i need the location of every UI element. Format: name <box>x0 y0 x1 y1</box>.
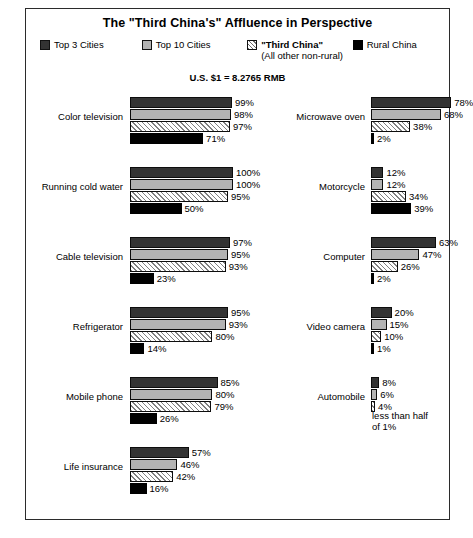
bar-row: 2% <box>371 273 451 284</box>
category-label: Color television <box>26 111 126 122</box>
bar-value-label: 46% <box>180 459 199 470</box>
bar-row: 50% <box>130 203 238 214</box>
legend-text: Top 10 Cities <box>156 39 211 50</box>
bar-row: 2% <box>371 133 451 144</box>
legend-label: "Third China" <box>261 39 343 50</box>
bar-value-label: 10% <box>384 331 403 342</box>
bar <box>130 459 177 470</box>
bar-value-label: 78% <box>454 97 473 108</box>
bar-row: 20% <box>371 307 451 318</box>
bar-value-label: 85% <box>221 377 240 388</box>
bar-value-label: 34% <box>409 191 428 202</box>
bar-value-label: 23% <box>157 273 176 284</box>
bar <box>130 133 203 144</box>
light-gray-swatch <box>142 40 152 50</box>
bar-row: 80% <box>130 389 238 400</box>
chart-group: Mobile phone85%80%79%26% <box>26 377 238 425</box>
bar <box>130 483 147 494</box>
bar-row: 63% <box>371 237 451 248</box>
category-label: Video camera <box>238 321 368 332</box>
bar-row: 10% <box>371 331 451 342</box>
bar-value-label: 80% <box>215 389 234 400</box>
chart-group: Color television99%98%97%71% <box>26 97 238 145</box>
category-label: Computer <box>238 251 368 262</box>
bar-value-label: 47% <box>422 249 441 260</box>
bar <box>130 273 154 284</box>
bar-row: 95% <box>130 249 238 260</box>
bar-value-label: 26% <box>160 413 179 424</box>
bar-row: 23% <box>130 273 238 284</box>
bar-value-label: 14% <box>147 343 166 354</box>
dark-gray-swatch <box>40 40 50 50</box>
bar-stack: 57%46%42%16% <box>130 447 238 495</box>
legend-label: Top 10 Cities <box>156 39 211 50</box>
legend-item: Rural China <box>353 39 439 50</box>
bar <box>371 97 451 108</box>
bar <box>130 167 233 178</box>
chart-column-right: Microwave oven78%68%38%2%Motorcycle12%12… <box>238 97 451 517</box>
bar <box>371 167 383 178</box>
chart-figure: The "Third China's" Affluence in Perspec… <box>25 8 450 520</box>
bar-value-label: 1% <box>377 343 391 354</box>
category-label: Mobile phone <box>26 391 126 402</box>
bar <box>130 319 226 330</box>
legend-text: Rural China <box>367 39 417 50</box>
bar-stack: 63%47%26%2% <box>371 237 451 285</box>
legend-text: "Third China"(All other non-rural) <box>261 39 343 61</box>
bar <box>130 237 230 248</box>
bar <box>371 389 377 400</box>
chart-group: Cable television97%95%93%23% <box>26 237 238 285</box>
bar <box>130 343 144 354</box>
bar-stack: 85%80%79%26% <box>130 377 238 425</box>
bar <box>371 343 374 354</box>
category-label: Running cold water <box>26 181 126 192</box>
bar-value-label: 80% <box>215 331 234 342</box>
bar-row: 100% <box>130 179 238 190</box>
bar-value-label: 68% <box>444 109 463 120</box>
bar-value-label: 79% <box>214 401 233 412</box>
chart-legend: Top 3 CitiesTop 10 Cities"Third China"(A… <box>26 39 449 61</box>
bar <box>371 109 441 120</box>
bar-value-label: less than half of 1% <box>372 411 428 432</box>
bar-row: 12% <box>371 179 451 190</box>
chart-plot-area: Color television99%98%97%71%Running cold… <box>26 97 449 517</box>
bar-row: 8% <box>371 377 451 388</box>
bar <box>130 307 228 318</box>
bar-row: 78% <box>371 97 451 108</box>
bar <box>371 203 411 214</box>
chart-group: Automobile8%6%4%less than half of 1% <box>238 377 451 425</box>
bar-value-label: 63% <box>439 237 458 248</box>
bar-value-label: 42% <box>176 471 195 482</box>
bar <box>371 377 379 388</box>
bar-stack: 78%68%38%2% <box>371 97 451 145</box>
bar-row: 71% <box>130 133 238 144</box>
chart-group: Running cold water100%100%95%50% <box>26 167 238 215</box>
bar <box>371 331 381 342</box>
bar-row: 68% <box>371 109 451 120</box>
bar-row: 38% <box>371 121 451 132</box>
bar <box>130 471 173 482</box>
chart-group: Microwave oven78%68%38%2% <box>238 97 451 145</box>
bar <box>130 401 211 412</box>
chart-column-left: Color television99%98%97%71%Running cold… <box>26 97 238 517</box>
bar <box>371 133 374 144</box>
bar-value-label: 39% <box>414 203 433 214</box>
legend-label: Top 3 Cities <box>54 39 104 50</box>
bar-row: 47% <box>371 249 451 260</box>
bar-row: 42% <box>130 471 238 482</box>
bar <box>371 261 398 272</box>
bar <box>130 203 182 214</box>
bar-value-label: 26% <box>401 261 420 272</box>
bar-row: 100% <box>130 167 238 178</box>
bar <box>371 179 383 190</box>
bar <box>130 97 232 108</box>
bar-row: 97% <box>130 237 238 248</box>
bar-value-label: 16% <box>150 483 169 494</box>
bar-value-label: 8% <box>382 377 396 388</box>
bar <box>130 191 228 202</box>
black-swatch <box>353 40 363 50</box>
legend-sublabel: (All other non-rural) <box>261 50 343 61</box>
legend-text: Top 3 Cities <box>54 39 104 50</box>
bar-row: 97% <box>130 121 238 132</box>
bar-row: 95% <box>130 307 238 318</box>
